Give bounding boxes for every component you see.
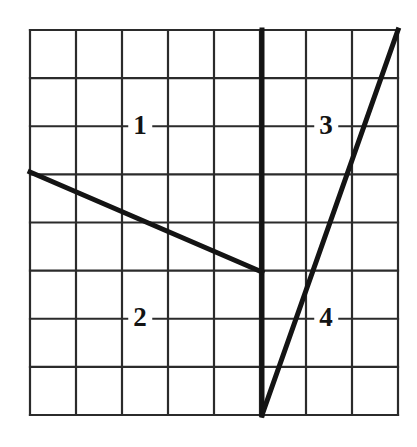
label-quadrant-1: 1: [128, 111, 152, 141]
quadrant-grid-figure: 1324: [0, 0, 417, 447]
label-quadrant-4: 4: [314, 303, 338, 333]
label-quadrant-3: 3: [314, 111, 338, 141]
figure-canvas: [0, 0, 417, 447]
label-quadrant-2: 2: [128, 303, 152, 333]
